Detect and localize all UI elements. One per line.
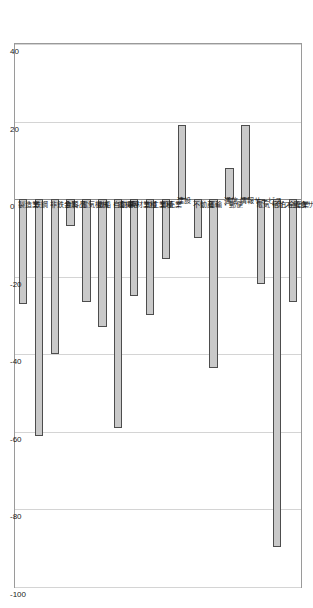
bar[interactable]	[273, 199, 281, 547]
bar[interactable]	[178, 125, 186, 199]
chart-rotor: 全産業宿泊・飲食サービス電気・ガス情報サービス通信運輸・郵便不動産建設卸売業加工…	[0, 0, 313, 608]
gridline	[15, 587, 301, 588]
bar-category-label: 非鉄金属	[50, 201, 78, 209]
bar-row[interactable]: 素材業種	[130, 44, 138, 587]
bar-row[interactable]: 不動産	[194, 44, 202, 587]
axis-tick-label: -100	[10, 590, 26, 599]
bar[interactable]	[257, 199, 265, 284]
bar-row[interactable]: 自動車	[114, 44, 122, 587]
axis-tick-label: -60	[10, 435, 22, 444]
bar-row[interactable]: 電気・ガス	[257, 44, 265, 587]
bar-row[interactable]: 卸売業	[162, 44, 170, 587]
bar-row[interactable]: 電気機械	[82, 44, 90, 587]
bar-row[interactable]: 加工業種	[146, 44, 154, 587]
bar[interactable]	[146, 199, 154, 315]
axis-tick-label: -40	[10, 357, 22, 366]
plot-area: 全産業宿泊・飲食サービス電気・ガス情報サービス通信運輸・郵便不動産建設卸売業加工…	[14, 43, 302, 588]
bar[interactable]	[114, 199, 122, 428]
bar-row[interactable]: 鉄鋼	[35, 44, 43, 587]
bar-category-label: 製造業	[18, 201, 39, 209]
bar-row[interactable]: 食料品	[67, 44, 75, 587]
axis-tick-label: 20	[10, 125, 19, 134]
chart-canvas: 全産業宿泊・飲食サービス電気・ガス情報サービス通信運輸・郵便不動産建設卸売業加工…	[0, 0, 313, 608]
axis-tick-label: -20	[10, 280, 22, 289]
bar[interactable]	[130, 199, 138, 296]
bar[interactable]	[82, 199, 90, 302]
bar-row[interactable]: 全産業	[289, 44, 297, 587]
bar[interactable]	[35, 199, 43, 436]
bar-row[interactable]: 通信	[225, 44, 233, 587]
bar-row[interactable]: 運輸・郵便	[210, 44, 218, 587]
bar[interactable]	[210, 199, 218, 368]
axis-tick-label: 0	[10, 202, 14, 211]
bar-row[interactable]: 宿泊・飲食サービス	[273, 44, 281, 587]
axis-tick-label: 40	[10, 47, 19, 56]
bar-category-label: 不動産	[193, 201, 214, 209]
bar[interactable]	[225, 168, 233, 199]
bar[interactable]	[241, 125, 249, 199]
axis-tick-label: -80	[10, 512, 22, 521]
bar[interactable]	[51, 199, 59, 354]
bar-row[interactable]: 造船・重機等	[98, 44, 106, 587]
bar[interactable]	[289, 199, 297, 302]
bar-category-label: 情報サービス	[240, 197, 282, 205]
bar-row[interactable]: 情報サービス	[241, 44, 249, 587]
bar[interactable]	[98, 199, 106, 327]
bar-row[interactable]: 製造業	[19, 44, 27, 587]
bar-row[interactable]: 建設	[178, 44, 186, 587]
bar-row[interactable]: 非鉄金属	[51, 44, 59, 587]
